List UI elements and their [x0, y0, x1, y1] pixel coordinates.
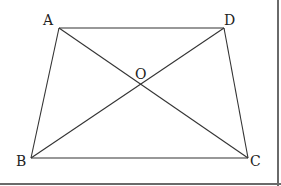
vertex-label-d: D: [224, 12, 235, 28]
diagonal-bd: [31, 28, 224, 158]
edge-dc: [224, 28, 248, 158]
vertex-label-b: B: [16, 153, 26, 169]
vertex-label-c: C: [250, 153, 261, 169]
diagonal-ac: [59, 28, 248, 158]
edge-ba: [31, 28, 59, 158]
vertex-label-a: A: [42, 12, 54, 28]
intersection-label-o: O: [135, 66, 146, 82]
trapezoid-figure: A D B C O: [0, 0, 281, 186]
diagram-canvas: A D B C O: [0, 0, 281, 186]
